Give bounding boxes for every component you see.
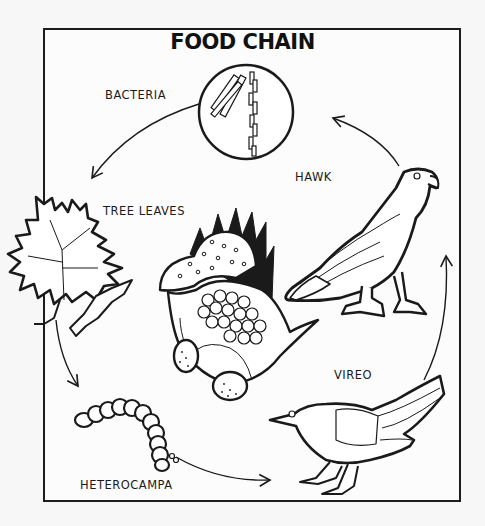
label-bacteria: BACTERIA xyxy=(105,88,166,102)
arrow-hawk-to-bacteria xyxy=(333,118,399,166)
label-heterocampa: HETEROCAMPA xyxy=(80,478,173,492)
bacteria-icon xyxy=(199,65,293,159)
hawk-icon xyxy=(286,169,439,316)
label-vireo: VIREO xyxy=(334,368,372,382)
illustration-layer xyxy=(0,0,485,526)
arrow-bacteria-to-leaves xyxy=(92,104,199,178)
arrow-vireo-to-hawk xyxy=(424,256,447,380)
label-hawk: HAWK xyxy=(295,170,332,184)
food-chain-diagram: FOOD CHAIN xyxy=(0,0,485,526)
label-tree-leaves: TREE LEAVES xyxy=(103,204,185,218)
arrow-heterocampa-to-vireo xyxy=(176,457,270,480)
fungus-cluster-icon xyxy=(160,208,318,400)
vireo-icon xyxy=(270,376,444,494)
heterocampa-caterpillar-icon xyxy=(75,399,179,471)
